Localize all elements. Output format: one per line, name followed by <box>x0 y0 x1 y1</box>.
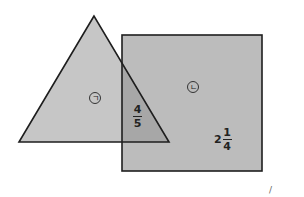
square-value-whole: 2 <box>214 133 222 146</box>
square-value-fraction: 1 4 <box>223 127 232 152</box>
overlap-denominator: 5 <box>134 118 142 129</box>
square-value: 2 1 4 <box>214 127 232 152</box>
shapes-diagram <box>0 0 304 197</box>
overlap-numerator: 4 <box>134 104 142 115</box>
square-value-numerator: 1 <box>223 127 231 138</box>
square-value-denominator: 4 <box>223 141 231 152</box>
corner-mark: / <box>269 185 272 195</box>
triangle-label: ㄱ <box>89 92 101 104</box>
square-label: ㄴ <box>187 81 199 93</box>
overlap-fraction: 4 5 <box>133 104 142 129</box>
